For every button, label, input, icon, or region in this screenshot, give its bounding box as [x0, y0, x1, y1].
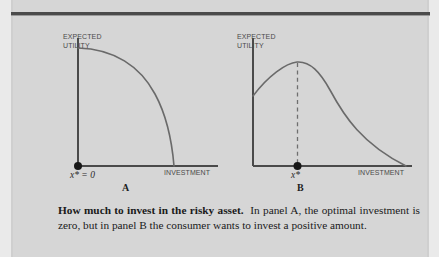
caption-lead: How much to invest in the risky asset.: [58, 204, 244, 216]
panel-b-optimum-dot: [294, 162, 302, 170]
panel-b-letter: B: [297, 182, 304, 193]
page-left-margin: [0, 0, 11, 257]
panel-b-x-axis-label: INVESTMENT: [358, 169, 404, 178]
panel-b-utility-curve: [253, 62, 406, 166]
panel-b-svg: [232, 28, 424, 178]
panel-a-optimum-dot: [74, 162, 82, 170]
panel-a-letter: A: [122, 182, 129, 193]
left-edge-shadow: [11, 0, 13, 257]
figure-container: EXPECTED UTILITY INVESTMENT x* = 0 A EXP…: [0, 0, 439, 257]
panel-b-y-axis-label: EXPECTED UTILITY: [237, 33, 276, 50]
panel-b-plot: EXPECTED UTILITY INVESTMENT x*: [232, 28, 424, 178]
panel-b-optimum-label: x*: [291, 170, 300, 180]
page-right-margin: [429, 0, 439, 257]
panel-a-optimum-label: x* = 0: [70, 170, 95, 180]
right-edge-shadow: [427, 0, 429, 257]
panel-a-y-axis-label: EXPECTED UTILITY: [63, 33, 102, 50]
panel-a-svg: [58, 28, 230, 178]
figure-caption: How much to invest in the risky asset. I…: [58, 203, 420, 233]
panel-a-plot: EXPECTED UTILITY INVESTMENT x* = 0: [58, 28, 230, 178]
panel-a-x-axis-label: INVESTMENT: [164, 169, 210, 178]
figure-top-rule: [11, 12, 430, 15]
panel-a-utility-curve: [78, 48, 174, 166]
